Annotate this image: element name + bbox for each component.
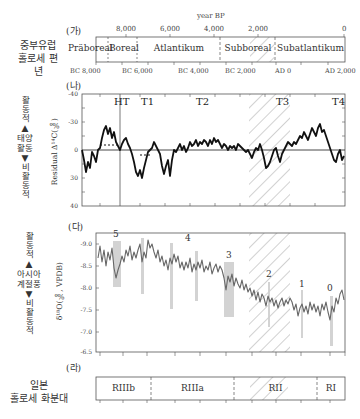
- na-side-top: 활동적: [20, 96, 30, 123]
- da-side-bottom: 비활동적: [24, 299, 34, 335]
- da-side-top: 활동적: [24, 232, 34, 259]
- bottom-tick: BC 6,000: [122, 67, 153, 75]
- ga-label: 중부유럽 홀로세 편년: [16, 39, 60, 78]
- event-4: 4: [185, 233, 191, 243]
- down-arrow-icon: ▼: [22, 289, 36, 299]
- panel-tag-ga: (가): [66, 24, 81, 37]
- na-side-bottom: 비활동적: [20, 163, 30, 199]
- event-5: 5: [113, 229, 119, 239]
- ga-label-line1: 중부유럽: [16, 39, 60, 52]
- up-arrow-icon: ▲: [18, 123, 32, 133]
- event-2: 2: [266, 269, 272, 279]
- monsoon-series: [98, 240, 344, 320]
- da-ytick: -7.0: [76, 328, 92, 335]
- period-prabo: Präboreal: [68, 43, 113, 53]
- top-tick: 6,000: [160, 25, 180, 33]
- da-ylabel: δ¹⁸O(‰, VPDB): [55, 262, 64, 320]
- ra-label-line2: 홀로세 화분대: [10, 392, 68, 405]
- top-axis-title: year BP: [197, 12, 225, 20]
- na-ytick: -30: [62, 118, 78, 125]
- marker-t4: T4: [332, 96, 345, 107]
- ra-label: 일본 홀로세 화분대: [10, 379, 68, 405]
- na-side-label: 활동적 ▲ 태양 활동 ▼ 비활동적: [18, 96, 32, 199]
- monsoon-plot-frame: [96, 233, 345, 352]
- bottom-tick: AD 0: [275, 67, 291, 75]
- da-side-mid2: 계절풍: [14, 279, 44, 289]
- marker-ht: HT: [114, 96, 129, 107]
- zone-rii: RII: [234, 383, 317, 393]
- na-ytick: 0: [62, 146, 78, 153]
- da-ytick: -7.5: [76, 306, 92, 313]
- panel-tag-da: (다): [68, 220, 83, 233]
- period-subatlantikum: Subatlantikum: [276, 43, 345, 53]
- da-ytick: -6.5: [76, 348, 92, 355]
- period-subboreal: Subboreal: [221, 43, 275, 53]
- na-ytick: 40: [62, 202, 78, 209]
- da-ytick: -8.0: [76, 284, 92, 291]
- na-side-mid1: 태양: [12, 133, 38, 143]
- marker-t1: T1: [141, 96, 154, 107]
- bottom-tick: BC 2,000: [225, 67, 256, 75]
- marker-t3: T3: [276, 96, 289, 107]
- event-1: 1: [299, 279, 305, 289]
- top-tick: 4,000: [204, 25, 224, 33]
- down-arrow-icon: ▼: [18, 153, 32, 163]
- top-tick: 2,000: [248, 25, 268, 33]
- bottom-tick: AD 2,000: [325, 67, 356, 75]
- solar-series: [82, 124, 344, 178]
- bottom-tick: BC 8,000: [70, 67, 101, 75]
- event-3: 3: [226, 250, 232, 260]
- na-side-mid2: 활동: [12, 143, 38, 153]
- up-arrow-icon: ▲: [22, 259, 36, 269]
- na-ytick: -40: [62, 90, 78, 97]
- ga-label-line2: 홀로세 편년: [16, 52, 60, 78]
- marker-t2: T2: [196, 96, 209, 107]
- panel-tag-ra: (라): [66, 361, 81, 374]
- period-boreal: Boreal: [109, 43, 137, 53]
- da-ytick: -8.5: [76, 262, 92, 269]
- event-0: 0: [327, 283, 333, 293]
- da-side-mid1: 아시아: [14, 269, 44, 279]
- zone-ri: RI: [317, 383, 345, 393]
- da-side-label: 활동적 ▲ 아시아 계절풍 ▼ 비활동적: [22, 232, 36, 335]
- top-tick: 8,000: [116, 25, 136, 33]
- da-ytick: -9.0: [76, 240, 92, 247]
- period-atlantikum: Atlantikum: [138, 43, 220, 53]
- zone-riiib: RIIIb: [96, 383, 151, 393]
- na-ylabel: Residual Δ¹⁴C(‰): [50, 118, 59, 185]
- top-tick: 0: [342, 25, 346, 33]
- zone-riiia: RIIIa: [151, 383, 234, 393]
- ra-label-line1: 일본: [10, 379, 68, 392]
- bottom-tick: BC 4,000: [178, 67, 209, 75]
- na-ytick: 30: [62, 174, 78, 181]
